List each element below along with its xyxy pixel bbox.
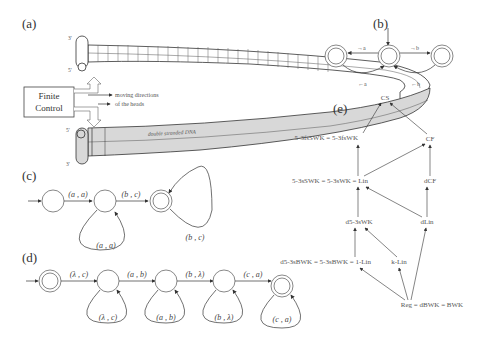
head-arrow-bottom — [74, 107, 101, 127]
d-edge-2: (a , b) — [127, 270, 147, 279]
node-dcf: dCF — [424, 177, 436, 185]
d-loop-3: (b , λ) — [215, 313, 234, 322]
node-k-lin: k-Lin — [391, 258, 407, 266]
d-edge-1: (λ , c) — [70, 270, 89, 279]
d-loop-1: (λ , c) — [99, 313, 118, 322]
node-cf: CF — [426, 135, 435, 143]
c-state-2 — [94, 190, 116, 212]
head-arrow-top — [74, 77, 101, 93]
annotation-line2: of the heads — [115, 101, 145, 107]
annotation-line1: moving directions — [115, 92, 159, 98]
label-3prime-bottom: 3' — [66, 161, 70, 167]
edge-from-left: ←a — [358, 81, 367, 87]
c-edge-2: (b , c) — [122, 190, 141, 199]
d-loop-final: (c , a) — [273, 315, 292, 324]
node-dlin: dLin — [420, 218, 434, 226]
panel-c-label: (c) — [22, 168, 36, 183]
c-edge-1: (a , a) — [68, 190, 88, 199]
bottom-strand — [88, 88, 430, 156]
d-edge-3: (b , λ) — [186, 270, 205, 279]
c-loop-2-label: (a , a) — [96, 241, 116, 250]
panel-e-label: (e) — [333, 101, 347, 116]
edge-from-right: ←b — [411, 81, 420, 87]
c-loop-final-label: (b , c) — [186, 233, 205, 242]
d-state-3 — [213, 270, 235, 292]
d-state-1 — [97, 270, 119, 292]
panel-b-label: (b) — [373, 16, 388, 31]
node-reg: Reg = dBWK = BWK — [401, 301, 463, 309]
label-5prime-top: 5' — [68, 67, 72, 73]
d-edge-4: (c , a) — [244, 270, 263, 279]
node-cs: CS — [381, 94, 390, 102]
figure-canvas: (a) 3' 5' double stranded DNA — [0, 0, 485, 346]
panel-d-label: (d) — [22, 250, 37, 265]
d-loop-2: (a , b) — [156, 313, 176, 322]
c-state-1 — [42, 190, 64, 212]
panel-d: (d) (λ , c) (λ , c) (a , b) (a , b) (b ,… — [22, 250, 301, 328]
hierarchy-edges — [355, 103, 430, 300]
edge-to-right: →b — [410, 45, 419, 51]
finite-control-line1: Finite — [38, 91, 59, 101]
label-3prime-top: 3' — [68, 35, 72, 41]
d-state-2 — [155, 270, 177, 292]
panel-a-label: (a) — [22, 16, 36, 31]
c-loop-final — [169, 166, 212, 227]
node-5-3fs: 5-3fsSWK = 5-3fsWK — [295, 134, 358, 142]
panel-c: (c) (a , a) (b , c) (a , a) (b , c) — [22, 166, 212, 250]
panel-a: (a) 3' 5' double stranded DNA — [22, 16, 430, 167]
finite-control-line2: Control — [35, 103, 63, 113]
node-1-lin: d5-3sBWK = 5-3sBWK = 1-Lin — [280, 258, 371, 266]
edge-to-left: →a — [357, 45, 366, 51]
label-5prime-bottom: 5' — [66, 127, 70, 133]
node-d5-3s: d5-3sWK — [345, 218, 372, 226]
node-lin: 5-3sSWK = 5-3sWK = Lin — [292, 177, 368, 185]
